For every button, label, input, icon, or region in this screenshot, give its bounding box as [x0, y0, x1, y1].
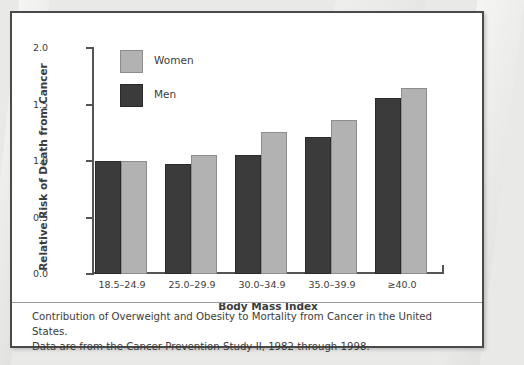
y-axis-tick	[86, 160, 94, 162]
y-axis-title: Relative Risk of Death from Cancer	[37, 52, 49, 282]
bars-layer	[94, 48, 444, 274]
caption-divider	[12, 302, 482, 303]
bar-group	[304, 48, 360, 274]
y-axis-tick	[86, 273, 94, 275]
x-axis-tick-label: 35.0–39.9	[296, 279, 368, 290]
bar-group	[94, 48, 150, 274]
figure-caption: Contribution of Overweight and Obesity t…	[32, 310, 464, 354]
x-axis-tick-label: 18.5–24.9	[86, 279, 158, 290]
legend-label-men: Men	[154, 88, 176, 100]
legend-swatch-men-icon	[120, 84, 143, 107]
bar-group	[164, 48, 220, 274]
bar-men	[235, 155, 261, 274]
legend-swatch-women-icon	[120, 50, 143, 73]
bar-men	[375, 98, 401, 274]
bar-women	[191, 155, 217, 274]
bar-men	[95, 161, 121, 274]
y-axis-tick	[86, 104, 94, 106]
caption-line-1: Contribution of Overweight and Obesity t…	[32, 310, 464, 340]
bar-women	[331, 120, 357, 274]
bar-group	[374, 48, 430, 274]
legend-label-women: Women	[154, 54, 194, 66]
figure-frame: 0.00.51.01.52.0 Relative Risk of Death f…	[10, 11, 484, 348]
bar-men	[305, 137, 331, 274]
bar-men	[165, 164, 191, 274]
caption-line-2: Data are from the Cancer Prevention Stud…	[32, 340, 464, 355]
bar-women	[121, 161, 147, 274]
bar-women	[261, 132, 287, 274]
bar-women	[401, 88, 427, 274]
bar-group	[234, 48, 290, 274]
chart-plot-area: 0.00.51.01.52.0 Relative Risk of Death f…	[12, 13, 482, 298]
x-axis-tick-label: ≥40.0	[366, 279, 438, 290]
y-axis-tick	[86, 47, 94, 49]
x-axis-tick-label: 25.0–29.9	[156, 279, 228, 290]
y-axis-tick	[86, 217, 94, 219]
x-axis-tick-label: 30.0–34.9	[226, 279, 298, 290]
